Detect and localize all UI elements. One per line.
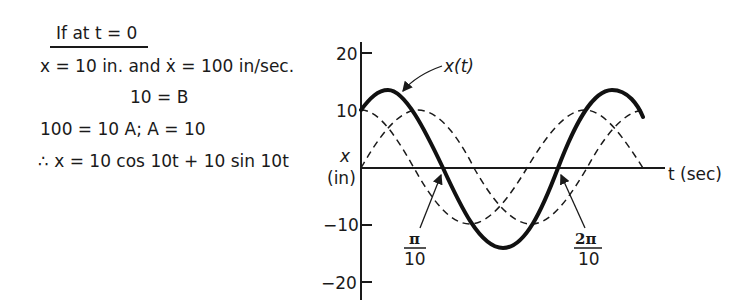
- curve-label-arrow: [403, 66, 442, 91]
- pi-over-10-denominator: 10: [404, 249, 426, 269]
- tick-label-minus-10: −10: [323, 215, 359, 235]
- tick-label-20: 20: [336, 44, 358, 64]
- two-pi-over-10-denominator: 10: [578, 249, 600, 269]
- y-axis-label: x: [339, 146, 351, 166]
- curve-label: x(t): [443, 56, 474, 76]
- tick-label-minus-20: −20: [321, 273, 357, 293]
- pi-over-10-numerator: π: [409, 230, 420, 248]
- y-axis-unit: (in): [327, 168, 356, 188]
- two-pi-over-10-numerator: 2π: [575, 230, 596, 248]
- t-axis-label: t (sec): [668, 164, 722, 184]
- tick-label-10: 10: [336, 101, 358, 121]
- displacement-plot: 20 10 −10 −20 x (in) t (sec) x(t) π 10 2…: [0, 0, 756, 302]
